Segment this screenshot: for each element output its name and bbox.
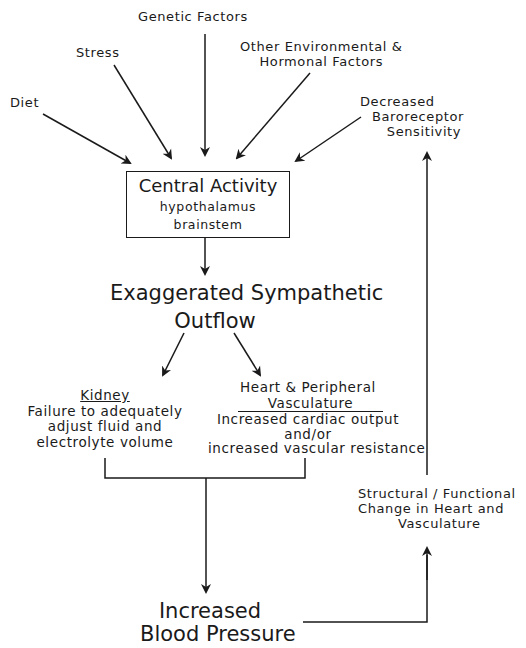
heart-line-2: and/or (208, 428, 408, 442)
heart-line-3: increased vascular resistance (208, 441, 408, 456)
kidney-line-2: adjust fluid and (10, 419, 200, 435)
kidney-heading: Kidney (10, 388, 200, 404)
baroreceptor-line-1: Decreased (360, 95, 464, 110)
sympathetic-outflow: Exaggerated Sympathetic Outflow (110, 281, 320, 333)
blood-pressure-line-2: Blood Pressure (140, 623, 280, 646)
input-diet: Diet (10, 96, 39, 111)
input-genetic: Genetic Factors (138, 10, 248, 25)
sympathetic-line-1: Exaggerated Sympathetic (110, 281, 320, 305)
central-activity-title: Central Activity (127, 176, 289, 197)
arrow-diet (43, 114, 130, 163)
other-env-line-2: Hormonal Factors (240, 55, 403, 70)
structural-change: Structural / Functional Change in Heart … (358, 487, 518, 532)
merge-bracket (105, 458, 305, 478)
kidney-line-3: electrolyte volume (10, 435, 200, 451)
heart-heading-1: Heart & Peripheral (208, 380, 408, 396)
arrow-to-kidney (163, 333, 184, 375)
baroreceptor-line-3: Sensitivity (360, 125, 464, 140)
central-activity-sub1: hypothalamus (127, 200, 289, 214)
input-other-environmental: Other Environmental & Hormonal Factors (240, 40, 403, 70)
blood-pressure-line-1: Increased (140, 600, 280, 623)
structural-line-3: Vasculature (358, 517, 518, 532)
sympathetic-line-2: Outflow (110, 309, 320, 333)
heart-block: Heart & Peripheral Vasculature Increased… (208, 380, 408, 456)
input-baroreceptor: Decreased Baroreceptor Sensitivity (360, 95, 464, 140)
input-stress: Stress (76, 46, 120, 61)
arrow-baroreceptor (296, 117, 361, 161)
structural-line-1: Structural / Functional (358, 487, 518, 502)
central-activity-box: Central Activity hypothalamus brainstem (126, 171, 290, 238)
structural-line-2: Change in Heart and (358, 502, 518, 517)
central-activity-sub2: brainstem (127, 218, 289, 232)
kidney-block: Kidney Failure to adequately adjust flui… (10, 388, 200, 450)
baroreceptor-line-2: Baroreceptor (360, 110, 464, 125)
arrow-to-heart (234, 333, 260, 375)
other-env-line-1: Other Environmental & (240, 40, 403, 55)
arrow-other-env (237, 73, 310, 158)
feedback-line (303, 555, 427, 622)
kidney-line-1: Failure to adequately (10, 404, 200, 420)
arrow-stress (114, 65, 171, 158)
increased-blood-pressure: Increased Blood Pressure (140, 600, 280, 646)
heart-heading-2: Vasculature (238, 396, 383, 413)
